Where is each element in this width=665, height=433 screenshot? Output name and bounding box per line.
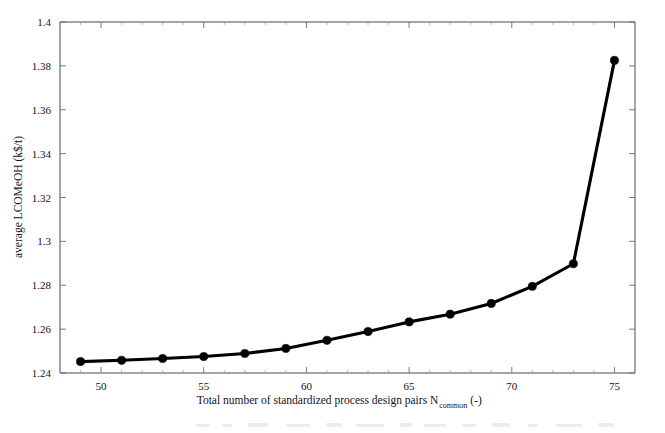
data-point <box>323 336 331 344</box>
y-axis-title: average LCOMeOH (k$/t) <box>12 136 25 258</box>
y-axis-tick-labels: 1.241.261.281.31.321.341.361.381.4 <box>32 16 52 379</box>
x-tick-label: 65 <box>404 380 416 392</box>
data-point <box>610 56 618 64</box>
data-point <box>118 356 126 364</box>
data-point <box>159 354 167 362</box>
data-point <box>487 299 495 307</box>
x-tick-label: 50 <box>96 380 108 392</box>
y-tick-label: 1.38 <box>32 60 52 72</box>
x-tick-label: 75 <box>609 380 621 392</box>
y-tick-label: 1.4 <box>37 16 51 28</box>
y-tick-label: 1.34 <box>32 148 52 160</box>
y-tick-label: 1.3 <box>37 235 51 247</box>
x-tick-label: 70 <box>506 380 518 392</box>
x-tick-label: 60 <box>301 380 313 392</box>
y-tick-label: 1.24 <box>32 367 52 379</box>
plot-area <box>60 22 635 373</box>
data-point <box>405 318 413 326</box>
data-point <box>364 327 372 335</box>
data-point <box>569 260 577 268</box>
y-tick-label: 1.28 <box>32 279 52 291</box>
svg-text:common: common <box>439 401 467 410</box>
data-point <box>76 357 84 365</box>
data-point <box>446 310 454 318</box>
x-tick-label: 55 <box>198 380 210 392</box>
plot-background <box>60 22 635 373</box>
svg-text:Total number of standardized p: Total number of standardized process des… <box>197 394 439 407</box>
svg-text:(-): (-) <box>470 394 482 407</box>
data-point <box>282 344 290 352</box>
data-point <box>241 349 249 357</box>
y-tick-label: 1.32 <box>32 192 51 204</box>
data-point <box>200 352 208 360</box>
y-tick-label: 1.26 <box>32 323 52 335</box>
chart-figure: 1.241.261.281.31.321.341.361.381.4 50556… <box>0 0 665 433</box>
y-tick-label: 1.36 <box>32 104 52 116</box>
data-point <box>528 282 536 290</box>
